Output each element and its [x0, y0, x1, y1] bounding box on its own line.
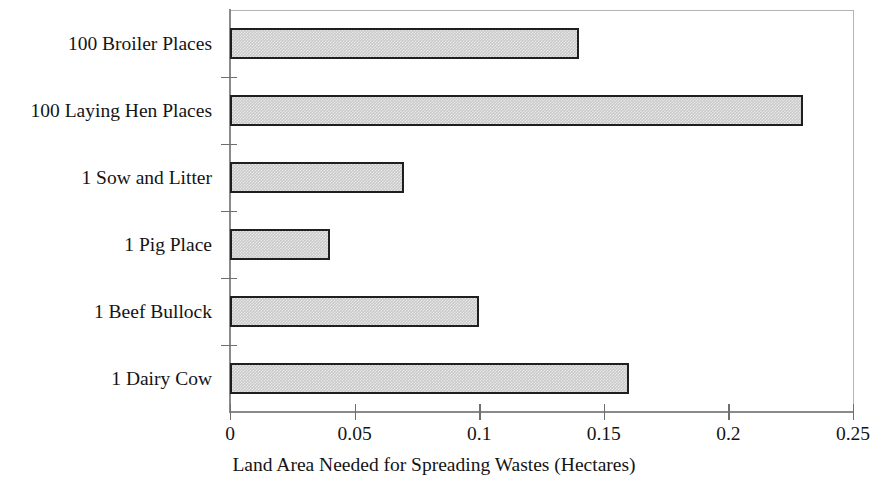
bar [230, 229, 330, 260]
bar [230, 162, 404, 193]
bar [230, 363, 629, 394]
x-axis-line [229, 411, 854, 413]
y-axis-tick [221, 278, 237, 279]
x-axis-tick-label: 0.15 [587, 424, 621, 444]
plot-area [230, 10, 854, 413]
x-axis-title: Land Area Needed for Spreading Wastes (H… [0, 455, 868, 475]
bar [230, 95, 803, 126]
x-axis-tick [479, 404, 480, 420]
x-axis-tick-label: 0.05 [338, 424, 372, 444]
y-axis-category-label: 100 Broiler Places [0, 34, 212, 54]
y-axis-category-label: 1 Pig Place [0, 235, 212, 255]
y-axis-tick [221, 144, 237, 145]
x-axis-tick [728, 404, 729, 420]
y-axis-tick [221, 77, 237, 78]
x-axis-tick-label: 0 [225, 424, 235, 444]
bar [230, 28, 579, 59]
x-axis-tick-label: 0.25 [836, 424, 870, 444]
x-axis-tick-label: 0.1 [467, 424, 491, 444]
x-axis-tick [355, 404, 356, 420]
y-axis-tick [221, 211, 237, 212]
x-axis-tick [853, 404, 854, 420]
x-axis-tick [604, 404, 605, 420]
y-axis-category-label: 1 Sow and Litter [0, 168, 212, 188]
bar [230, 296, 479, 327]
y-axis-category-label: 1 Dairy Cow [0, 369, 212, 389]
x-axis-tick [230, 404, 231, 420]
x-axis-tick-label: 0.2 [716, 424, 740, 444]
y-axis-category-labels: 100 Broiler Places100 Laying Hen Places1… [0, 10, 222, 412]
y-axis-category-label: 100 Laying Hen Places [0, 101, 212, 121]
y-axis-tick [221, 345, 237, 346]
y-axis-category-label: 1 Beef Bullock [0, 302, 212, 322]
